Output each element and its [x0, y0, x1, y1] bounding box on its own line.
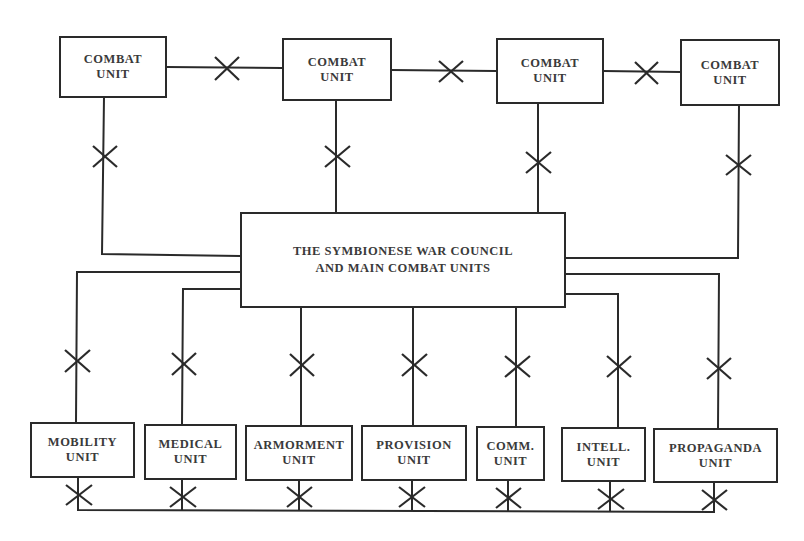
x-mark-icon: [65, 350, 90, 372]
x-mark-icon: [505, 356, 530, 377]
unit-label: MEDICAL UNIT: [159, 437, 223, 467]
comm-unit: COMM. UNIT: [476, 426, 545, 481]
combat-unit-1: COMBAT UNIT: [59, 36, 167, 98]
armorment-unit: ARMORMENT UNIT: [245, 425, 353, 481]
x-mark-icon: [325, 146, 350, 167]
link-combat2-combat3: [391, 70, 496, 71]
link-combat1-combat2: [166, 67, 282, 68]
provision-unit: PROVISION UNIT: [361, 425, 467, 481]
x-mark-icon: [93, 146, 117, 167]
link-council-intell: [565, 294, 618, 428]
combat-unit-label: COMBAT UNIT: [308, 55, 366, 85]
war-council-box: THE SYMBIONESE WAR COUNCIL AND MAIN COMB…: [240, 212, 566, 308]
propaganda-unit: PROPAGANDA UNIT: [653, 428, 778, 483]
combat-unit-label: COMBAT UNIT: [701, 58, 759, 88]
link-combat4-council: [565, 105, 739, 258]
combat-unit-4: COMBAT UNIT: [680, 39, 780, 106]
link-council-mobility: [76, 272, 240, 422]
intell-unit: INTELL. UNIT: [561, 427, 646, 482]
combat-unit-2: COMBAT UNIT: [282, 38, 392, 101]
unit-label: ARMORMENT UNIT: [254, 438, 345, 468]
x-mark-icon: [172, 353, 196, 375]
link-combat3-combat4: [603, 71, 681, 72]
unit-label: PROVISION UNIT: [376, 438, 451, 468]
bottom-bus: [78, 478, 714, 512]
war-council-label: THE SYMBIONESE WAR COUNCIL AND MAIN COMB…: [293, 243, 513, 277]
x-mark-icon: [402, 354, 427, 376]
combat-unit-label: COMBAT UNIT: [84, 52, 142, 82]
unit-label: COMM. UNIT: [487, 439, 535, 469]
unit-label: INTELL. UNIT: [577, 440, 631, 470]
x-mark-icon: [635, 62, 658, 84]
unit-label: MOBILITY UNIT: [48, 435, 117, 465]
combat-unit-3: COMBAT UNIT: [496, 38, 604, 104]
link-council-propaganda: [565, 274, 719, 428]
link-combat1-council: [102, 97, 240, 256]
org-diagram: COMBAT UNIT COMBAT UNIT COMBAT UNIT COMB…: [0, 0, 804, 541]
combat-unit-label: COMBAT UNIT: [521, 56, 579, 86]
unit-label: PROPAGANDA UNIT: [669, 441, 762, 471]
mobility-unit: MOBILITY UNIT: [30, 422, 135, 478]
medical-unit: MEDICAL UNIT: [144, 424, 237, 480]
